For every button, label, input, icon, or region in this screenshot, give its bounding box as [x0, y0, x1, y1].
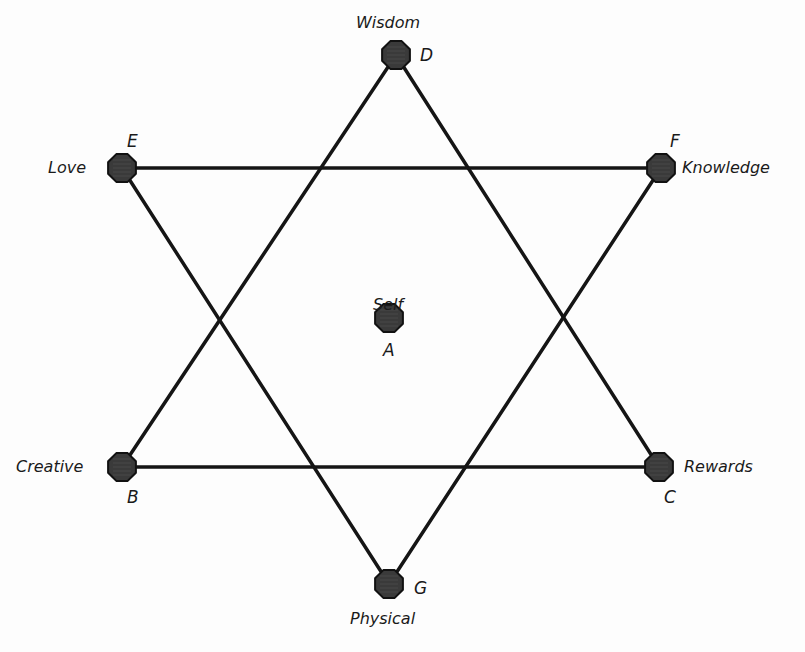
node-d [382, 41, 410, 69]
node-c [645, 453, 673, 481]
node-letter-g: G [414, 580, 427, 597]
edge-f-g [389, 168, 661, 584]
node-letter-c: C [664, 489, 676, 506]
edge-e-g [122, 168, 389, 584]
node-g [375, 570, 403, 598]
node-label-physical: Physical [350, 611, 415, 627]
diagram-graphics [0, 0, 805, 652]
node-label-love: Love [48, 160, 86, 176]
hexagram-diagram: Self A Creative B Rewards C Wisdom D Lov… [0, 0, 805, 652]
node-letter-f: F [670, 133, 680, 150]
node-f [647, 154, 675, 182]
node-label-wisdom: Wisdom [356, 15, 420, 31]
node-label-creative: Creative [16, 459, 83, 475]
node-label-knowledge: Knowledge [682, 160, 770, 176]
edge-d-b [122, 55, 396, 467]
node-label-rewards: Rewards [684, 459, 753, 475]
node-letter-e: E [127, 133, 138, 150]
node-letter-d: D [420, 47, 433, 64]
node-label-self: Self [373, 297, 403, 313]
node-letter-b: B [127, 489, 139, 506]
node-b [108, 453, 136, 481]
nodes-group [108, 41, 675, 598]
node-letter-a: A [383, 342, 395, 359]
edge-d-c [396, 55, 659, 467]
node-e [108, 154, 136, 182]
